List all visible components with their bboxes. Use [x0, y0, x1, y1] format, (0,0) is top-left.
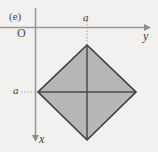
dimension-label-a-left: a [13, 85, 19, 96]
x-axis-label: x [39, 133, 44, 145]
figure-panel-e: (e) O y x a a [0, 0, 158, 152]
origin-label: O [17, 27, 26, 39]
dimension-label-a-top: a [83, 12, 89, 23]
geometry-figure-svg [0, 0, 158, 152]
panel-label: (e) [9, 11, 21, 22]
x-axis-arrowhead-icon [32, 135, 39, 142]
y-axis-label: y [143, 30, 148, 42]
